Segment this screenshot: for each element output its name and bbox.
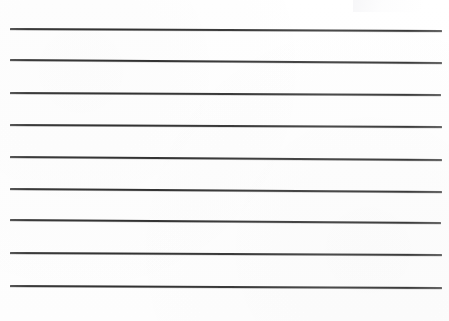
- lined-paper-page: [0, 0, 449, 321]
- ruled-line: [10, 188, 442, 193]
- ruled-line: [10, 92, 441, 95]
- ruled-line: [10, 59, 442, 64]
- ruled-line: [10, 252, 442, 256]
- ruled-line: [10, 156, 442, 160]
- ruled-line: [10, 285, 442, 289]
- ruled-line: [10, 28, 442, 32]
- ruled-line: [10, 219, 441, 223]
- ruled-line: [10, 124, 442, 128]
- scan-smudge-artifact: [353, 0, 423, 12]
